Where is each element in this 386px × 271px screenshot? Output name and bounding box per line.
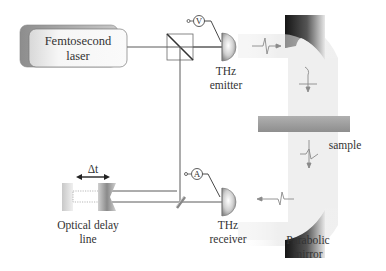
ammeter-symbol: A [194, 169, 201, 179]
thz-receiver: A THz receiver [185, 169, 247, 246]
emitter-label-line2: emitter [210, 79, 243, 91]
voltmeter-symbol: V [196, 16, 203, 26]
beam-splitter [167, 34, 222, 60]
sample-label: sample [329, 139, 362, 152]
optical-delay-line: Δt Optical delay line [57, 163, 119, 245]
thz-setup-diagram: Femtosecond laser V THz emitter A THz re… [0, 0, 386, 271]
delay-line-label-line2: line [79, 233, 96, 245]
mirror-label-line2: mirror [293, 248, 323, 260]
laser-label-line1: Femtosecond [45, 34, 112, 48]
delay-line-label-line1: Optical delay [57, 219, 119, 232]
optical-beam-lines [112, 47, 224, 203]
laser-label-line2: laser [66, 49, 90, 63]
emitter-label-line1: THz [216, 65, 236, 77]
thz-emitter: V THz emitter [187, 16, 242, 92]
mirror-label-line1: Parabolic [286, 234, 329, 246]
femtosecond-laser: Femtosecond laser [20, 25, 127, 67]
sample-slab [258, 116, 350, 132]
delta-t-label: Δt [88, 163, 99, 175]
receiver-label-line2: receiver [209, 233, 246, 245]
receiver-label-line1: THz [218, 219, 238, 231]
